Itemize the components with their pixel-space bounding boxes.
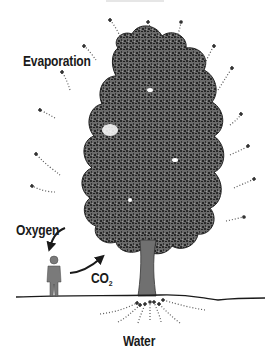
tree-trunk — [138, 240, 156, 296]
co2-label: CO2 — [91, 270, 112, 288]
oxygen-label: Oxygen — [16, 222, 59, 238]
ground-line — [16, 295, 265, 300]
co2-label-main: CO — [91, 270, 109, 286]
person-silhouette — [47, 256, 61, 296]
tree-canopy — [82, 26, 224, 254]
co2-label-subscript: 2 — [109, 279, 113, 288]
water-label: Water — [123, 333, 155, 349]
water-arrows — [100, 300, 205, 323]
evaporation-label: Evaporation — [23, 53, 91, 69]
